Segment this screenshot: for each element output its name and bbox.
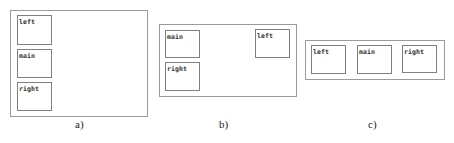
box-label: right [404, 48, 424, 56]
diagram-c-caption: c) [368, 118, 377, 130]
box-label: right [167, 65, 187, 73]
diagram-b-box-right: right [165, 62, 200, 91]
box-label: left [313, 48, 329, 56]
box-label: main [167, 33, 183, 41]
diagram-a-box-left: left [17, 15, 52, 45]
diagram-a-box-main: main [17, 49, 52, 78]
box-label: main [359, 48, 375, 56]
diagram-c-box-left: left [311, 45, 346, 74]
diagram-b-box-main: main [165, 30, 200, 58]
diagram-c-box-right: right [402, 45, 437, 73]
box-label: left [257, 32, 273, 40]
diagram-a-box-right: right [17, 82, 52, 111]
box-label: main [19, 52, 35, 60]
box-label: left [19, 18, 35, 26]
diagram-c-box-main: main [357, 45, 392, 74]
box-label: right [19, 85, 39, 93]
diagram-b-box-left: left [255, 29, 290, 58]
diagram-b-caption: b) [219, 118, 228, 130]
diagram-a-caption: a) [75, 118, 84, 130]
